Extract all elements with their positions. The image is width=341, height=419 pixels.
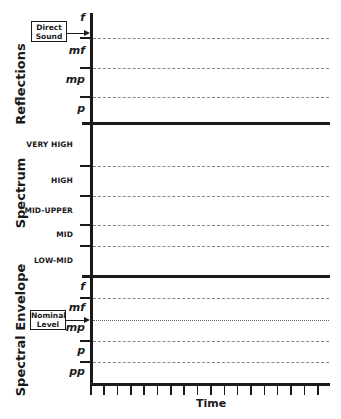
time-tick [90, 386, 92, 395]
arrowhead-icon [84, 30, 90, 36]
time-tick [197, 386, 199, 395]
direct-sound-line2: Sound [32, 32, 66, 41]
nominal-level-line [93, 320, 329, 321]
arrowhead-icon [84, 317, 90, 323]
level-tick [80, 96, 92, 98]
time-tick [157, 386, 159, 395]
section-label-spectrum: Spectrum [13, 158, 28, 229]
time-tick [237, 386, 239, 395]
band-label-very-high: VERY HIGH [26, 140, 73, 149]
level-gridline [93, 362, 329, 363]
divider-spectrum-envelope [82, 275, 330, 278]
time-tick [183, 386, 185, 395]
section-label-reflections: Reflections [13, 43, 28, 125]
band-gridline [93, 246, 329, 247]
time-tick [117, 386, 119, 395]
band-label-mid-upper: MID-UPPER [24, 206, 73, 215]
time-tick [250, 386, 252, 395]
band-gridline [93, 196, 329, 197]
level-tick [80, 37, 92, 39]
direct-sound-box: Direct Sound [31, 21, 67, 42]
time-tick [224, 386, 226, 395]
nominal-level-arrow [66, 320, 85, 321]
level-label-pp: pp [55, 365, 85, 378]
time-tick [170, 386, 172, 395]
time-tick [103, 386, 105, 395]
band-gridline [93, 166, 329, 167]
band-label-high: HIGH [51, 176, 73, 185]
nominal-level-line2: Level [31, 320, 65, 329]
time-tick [143, 386, 145, 395]
level-label-mf: mf [55, 44, 85, 57]
band-tick [80, 224, 92, 226]
section-label-spectral-envelope: Spectral Envelope [13, 264, 28, 397]
nominal-level-box: Nominal Level [30, 310, 66, 330]
level-label-p: p [55, 344, 85, 357]
band-label-low-mid: LOW-MID [34, 256, 73, 265]
time-tick [304, 386, 306, 395]
time-tick [210, 386, 212, 395]
band-tick [80, 245, 92, 247]
level-gridline [93, 38, 329, 39]
direct-sound-line1: Direct [32, 23, 66, 32]
time-tick [264, 386, 266, 395]
band-tick [80, 165, 92, 167]
level-tick [80, 361, 92, 363]
time-tick [317, 386, 319, 395]
level-label-f: f [55, 280, 85, 293]
level-tick [80, 297, 92, 299]
divider-reflections-spectrum [82, 122, 330, 125]
level-tick [80, 67, 92, 69]
band-label-mid: MID [56, 230, 73, 239]
level-gridline [93, 298, 329, 299]
level-tick [80, 340, 92, 342]
level-gridline [93, 97, 329, 98]
band-tick [80, 195, 92, 197]
band-gridline [93, 225, 329, 226]
time-axis-label: Time [196, 397, 226, 410]
time-tick [277, 386, 279, 395]
time-tick [130, 386, 132, 395]
time-tick [290, 386, 292, 395]
level-gridline [93, 68, 329, 69]
level-label-p: p [55, 102, 85, 115]
nominal-level-line1: Nominal [31, 311, 65, 320]
direct-sound-arrow [67, 33, 85, 34]
level-label-mp: mp [55, 73, 85, 86]
level-gridline [93, 341, 329, 342]
